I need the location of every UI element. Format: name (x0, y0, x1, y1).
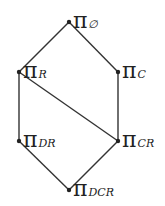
node-dot (67, 188, 71, 192)
node-DR: πDR (17, 127, 56, 152)
subscript: DR (37, 137, 55, 150)
node-dot (67, 20, 71, 24)
node-C: πC (116, 58, 147, 83)
node-dot (116, 70, 120, 74)
pi-symbol: π (122, 58, 136, 83)
subscript: CR (137, 137, 154, 150)
node-label: π∅ (73, 8, 98, 33)
subscript: C (137, 68, 146, 81)
node-empty: π∅ (67, 8, 99, 33)
node-dot (17, 70, 21, 74)
subscript: R (37, 68, 46, 81)
node-DCR: πDCR (67, 176, 114, 201)
node-label: πCR (122, 127, 154, 152)
pi-symbol: π (73, 8, 87, 33)
pi-symbol: π (122, 127, 136, 152)
node-label: πDCR (73, 176, 114, 201)
node-CR: πCR (116, 127, 154, 152)
lattice-diagram: π∅πRπCπDRπCRπDCR (0, 0, 165, 206)
pi-symbol: π (23, 58, 37, 83)
node-label: πC (122, 58, 146, 83)
subscript: ∅ (88, 18, 98, 31)
pi-symbol: π (23, 127, 37, 152)
pi-symbol: π (73, 176, 87, 201)
node-dot (17, 139, 21, 143)
node-label: πDR (23, 127, 56, 152)
node-dot (116, 139, 120, 143)
subscript: DCR (87, 186, 114, 199)
node-label: πR (23, 58, 47, 83)
